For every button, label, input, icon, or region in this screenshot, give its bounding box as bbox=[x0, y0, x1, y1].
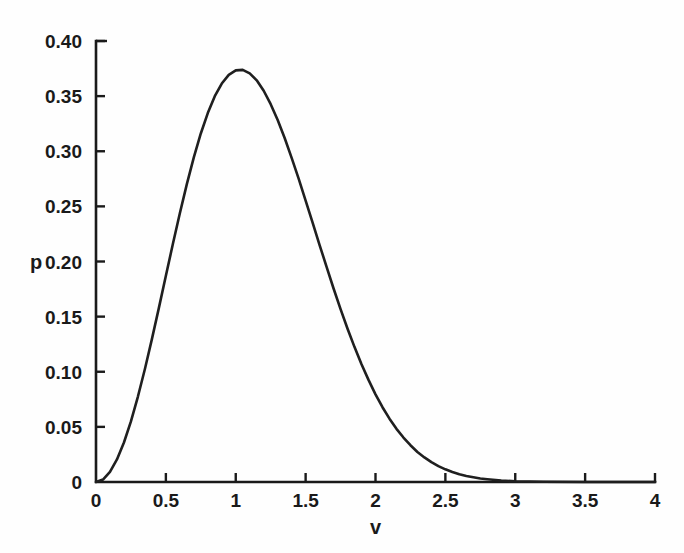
data-curve bbox=[96, 70, 655, 482]
x-tick-label: 1.5 bbox=[292, 490, 319, 511]
y-axis-tick-labels: 00.050.100.150.200.250.300.350.40 bbox=[45, 31, 82, 493]
x-tick-label: 3.5 bbox=[572, 490, 599, 511]
x-axis-tick-labels: 00.511.522.533.54 bbox=[91, 490, 661, 511]
chart-page: 00.511.522.533.54 00.050.100.150.200.250… bbox=[0, 0, 684, 553]
x-tick-label: 4 bbox=[650, 490, 661, 511]
x-tick-label: 2 bbox=[370, 490, 381, 511]
y-tick-label: 0.40 bbox=[45, 31, 82, 52]
x-tick-label: 0 bbox=[91, 490, 102, 511]
x-tick-label: 3 bbox=[510, 490, 521, 511]
speed-distribution-chart: 00.511.522.533.54 00.050.100.150.200.250… bbox=[0, 0, 684, 553]
axis-spine bbox=[96, 41, 655, 482]
y-tick-label: 0.05 bbox=[45, 417, 82, 438]
y-tick-label: 0.15 bbox=[45, 307, 82, 328]
x-axis-title: v bbox=[370, 516, 382, 538]
x-tick-label: 2.5 bbox=[432, 490, 459, 511]
x-tick-label: 1 bbox=[230, 490, 241, 511]
x-tick-label: 0.5 bbox=[153, 490, 180, 511]
tick-marks bbox=[96, 41, 655, 482]
y-tick-label: 0.20 bbox=[45, 252, 82, 273]
y-axis-title: p bbox=[30, 251, 42, 273]
y-tick-label: 0.35 bbox=[45, 86, 82, 107]
y-tick-label: 0.25 bbox=[45, 196, 82, 217]
data-curve-group bbox=[96, 70, 655, 482]
y-tick-label: 0 bbox=[71, 472, 82, 493]
y-tick-label: 0.30 bbox=[45, 141, 82, 162]
axes bbox=[96, 41, 655, 482]
y-tick-label: 0.10 bbox=[45, 362, 82, 383]
